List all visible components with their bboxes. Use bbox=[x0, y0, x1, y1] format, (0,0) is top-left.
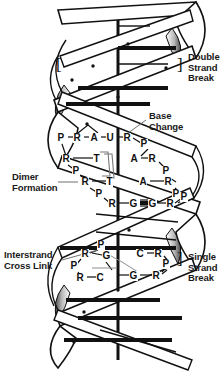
bracket-right-single-strand-break: ] bbox=[177, 250, 183, 267]
nucleotide-letter: T bbox=[106, 177, 113, 187]
nucleotide-letter: C bbox=[136, 249, 144, 259]
nucleotide-letter: R bbox=[81, 177, 89, 187]
label-interstrand-cross-link: Interstrand Cross Link bbox=[4, 250, 53, 271]
nucleotide-letter: G bbox=[129, 271, 138, 281]
nucleotide-letter: U bbox=[106, 133, 114, 143]
nucleotide-letter: R bbox=[81, 249, 89, 259]
label-double-strand-break: Double Strand Break bbox=[188, 52, 220, 84]
nucleotide-letter: G bbox=[148, 199, 157, 209]
label-dimer-formation: Dimer Formation bbox=[12, 172, 58, 193]
nucleotide-letter: R bbox=[73, 133, 81, 143]
nucleotide-letter: R bbox=[76, 273, 84, 283]
nucleotide-letter: P bbox=[180, 192, 188, 202]
nucleotide-letter: P bbox=[57, 133, 65, 143]
nucleotide-letter: R bbox=[148, 154, 156, 164]
nucleotide-letter: P bbox=[72, 166, 80, 176]
nucleotide-letter: A bbox=[90, 133, 98, 143]
nucleotide-letter: G bbox=[129, 199, 138, 209]
nucleotide-letter: P bbox=[70, 261, 78, 271]
nucleotide-letter: P bbox=[162, 166, 170, 176]
label-single-strand-break: Single Strand Break bbox=[188, 252, 218, 284]
label-base-change: Base Change bbox=[149, 111, 183, 132]
nucleotide-letter: R bbox=[123, 133, 131, 143]
nucleotide-letter: A bbox=[130, 154, 138, 164]
nucleotide-letter: R bbox=[166, 199, 174, 209]
nucleotide-letter: A bbox=[139, 177, 147, 187]
nucleotide-letter: R bbox=[152, 271, 160, 281]
dna-damage-figure: PRAURPRTARPPRTARPPRGGRPPRGCRPPRCGR Doubl… bbox=[0, 0, 223, 372]
nucleotide-letter: P bbox=[97, 240, 105, 250]
nucleotide-letter: R bbox=[164, 177, 172, 187]
nucleotide-letter: G bbox=[102, 251, 111, 261]
nucleotide-letter: R bbox=[154, 249, 162, 259]
nucleotide-letter: P bbox=[140, 139, 148, 149]
nucleotide-letter: P bbox=[95, 189, 103, 199]
nucleotide-letter: T bbox=[93, 154, 100, 164]
bracket-right-double-strand-break: ] bbox=[177, 56, 183, 73]
nucleotide-letter: R bbox=[108, 199, 116, 209]
nucleotide-letter: P bbox=[162, 259, 170, 269]
nucleotide-letter: C bbox=[96, 273, 104, 283]
bracket-left-double-strand-break: [ bbox=[56, 56, 62, 73]
nucleotide-letter: R bbox=[62, 154, 70, 164]
